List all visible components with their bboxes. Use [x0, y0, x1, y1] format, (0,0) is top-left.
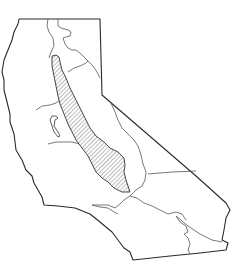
california-map [0, 0, 244, 270]
state-outline [2, 19, 230, 260]
